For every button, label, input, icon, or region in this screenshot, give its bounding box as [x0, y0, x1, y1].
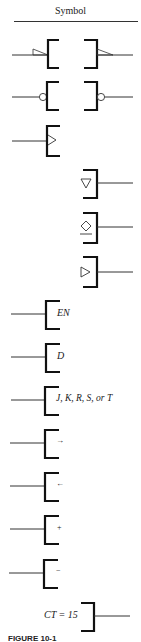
column-header-symbol: Symbol: [0, 5, 141, 16]
header-rule: [14, 21, 138, 22]
data-label: D: [57, 350, 64, 361]
three-state-symbol: [0, 211, 141, 245]
figure-caption: FIGURE 10-1: [8, 634, 56, 642]
shift-right-label: →: [56, 436, 64, 445]
content-label: CT = 15: [44, 609, 78, 620]
polarity-indicator-symbol: [0, 38, 141, 72]
shift-left-label: ←: [56, 479, 64, 488]
dynamic-input-symbol: [0, 124, 141, 158]
data-symbol: [0, 342, 141, 376]
shift-left-symbol: [0, 471, 141, 505]
jkrst-label: J, K, R, S, or T: [56, 393, 112, 403]
enable-label: EN: [57, 307, 70, 318]
enable-symbol: [0, 299, 141, 333]
buffer-output-symbol: [0, 255, 141, 289]
count-down-symbol: [0, 558, 141, 592]
count-up-symbol: [0, 514, 141, 548]
negation-symbol: [0, 80, 141, 114]
shift-right-symbol: [0, 428, 141, 462]
count-up-label: +: [57, 523, 62, 532]
count-down-label: −: [56, 566, 61, 575]
open-collector-symbol: [0, 168, 141, 202]
